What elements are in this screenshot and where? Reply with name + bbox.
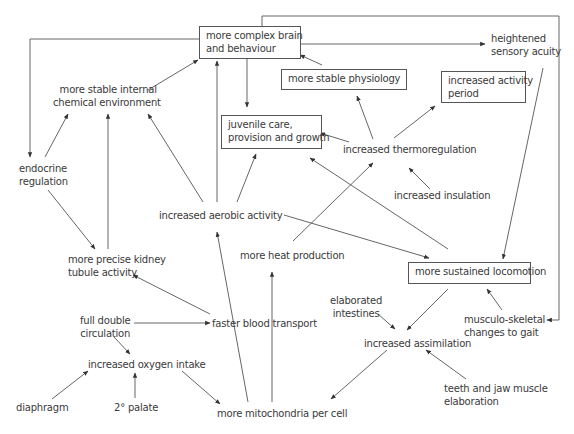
edge-locomotion-assimilation <box>407 289 448 330</box>
node-increased-assimilation: increased assimilation <box>364 337 471 350</box>
node-juvenile-care: juvenile care, provision and growth <box>221 115 322 149</box>
edge-thermo-activity <box>394 106 435 138</box>
node-increased-thermoregulation: increased thermoregulation <box>343 143 476 156</box>
node-2-palate: 2° palate <box>114 401 158 414</box>
node-more-complex-brain: more complex brain and behaviour <box>199 26 301 59</box>
edge-layer <box>0 0 574 434</box>
edge-thermo-physio <box>357 96 373 139</box>
node-endocrine-regulation: endocrine regulation <box>19 162 68 188</box>
edge-aerobic-chem <box>148 114 203 202</box>
diagram-canvas: more complex brain and behaviour heighte… <box>0 0 574 434</box>
edge-diaphragm-oxygen <box>52 371 88 399</box>
edge-blood-kidney <box>133 275 210 314</box>
node-more-stable-physiology: more stable physiology <box>281 69 407 90</box>
node-faster-blood-transport: faster blood transport <box>212 317 317 330</box>
node-increased-activity-period: increased activity period <box>441 71 526 103</box>
edge-gait-locomotion <box>487 289 502 310</box>
node-increased-insulation: increased insulation <box>394 189 490 202</box>
node-diaphragm: diaphragm <box>16 401 68 414</box>
node-more-precise-kidney-tubule-activity: more precise kidney tubule activity <box>68 253 166 279</box>
node-musculo-skeletal-changes-to-gait: musculo-skeletal changes to gait <box>464 313 545 339</box>
edge-teeth-assimilation <box>426 350 466 379</box>
edge-physio-brain <box>300 55 322 65</box>
edge-insulation-thermo <box>409 168 430 189</box>
edge-assimilation-mito <box>331 350 387 399</box>
edge-endocrine-kidney <box>48 190 95 249</box>
node-more-heat-production: more heat production <box>240 249 345 262</box>
edge-aerobic-juvenile <box>237 154 256 202</box>
edge-endocrine-chem <box>45 114 68 157</box>
edge-oxygen-mito <box>182 371 220 404</box>
node-more-stable-internal-chemical-environment: more stable internal chemical environmen… <box>53 83 161 109</box>
node-increased-aerobic-activity: increased aerobic activity <box>159 209 282 222</box>
node-increased-oxygen-intake: increased oxygen intake <box>88 358 206 371</box>
edge-locomotion-juvenile <box>310 158 448 249</box>
node-full-double-circulation: full double circulation <box>80 314 130 340</box>
node-elaborated-intestines: elaborated intestines <box>330 294 382 320</box>
node-teeth-and-jaw-muscle-elaboration: teeth and jaw muscle elaboration <box>444 382 548 408</box>
node-more-mitochondria-per-cell: more mitochondria per cell <box>217 407 347 420</box>
node-heightened-sensory-acuity: heightened sensory acuity <box>491 32 561 58</box>
node-more-sustained-locomotion: more sustained locomotion <box>408 262 531 284</box>
